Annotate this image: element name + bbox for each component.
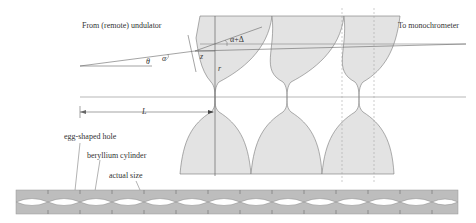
hole-label: egg-shaped hole [64,133,116,141]
alpha-symbol: α [162,55,166,63]
actual-size-strip [16,190,458,214]
source-label: From (remote) undulator [82,22,162,30]
cylinder-pointer [95,160,100,191]
compound-refractive-lens-diagram: From (remote) undulator To monochrometer… [0,0,476,223]
incoming-ray [80,51,195,66]
z-symbol: z [200,53,203,61]
r-symbol: r [218,65,221,73]
upper-lens-halves [196,16,400,98]
destination-label: To monochrometer [398,22,459,30]
upper-lens-3 [342,16,400,98]
surface-tangent [188,35,196,72]
cylinder-label: beryllium cylinder [87,152,146,160]
upper-lens-2 [270,16,344,98]
upper-lens-1 [196,16,272,98]
L-symbol: L [142,108,146,116]
lower-lens-3 [322,98,394,174]
L-arrow-left [80,110,86,114]
alpha-delta-symbol: α+Δ [230,36,244,44]
actual-size-pointer [136,181,140,190]
diagram-canvas [0,0,476,223]
lower-lens-halves [180,98,394,174]
actual-size-label: actual size [109,172,143,180]
lower-lens-2 [251,98,322,174]
theta-symbol: θ [146,58,150,66]
lower-lens-1 [180,98,251,174]
